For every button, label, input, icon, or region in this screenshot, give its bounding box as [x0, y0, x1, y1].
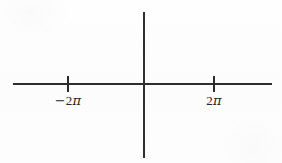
minus-sign-glyph: − [55, 93, 66, 108]
tick-mark-two-pi [213, 76, 215, 92]
tick-label-number: 2 [66, 93, 73, 108]
tick-mark-negative-two-pi [67, 76, 69, 92]
paper-texture [0, 0, 282, 163]
axes-figure: −2π 2π [0, 0, 282, 163]
pi-symbol-glyph: π [73, 93, 82, 108]
tick-label-negative-two-pi: −2π [38, 93, 98, 108]
y-axis-line [143, 12, 145, 158]
pi-symbol-glyph: π [213, 93, 222, 108]
tick-label-two-pi: 2π [184, 93, 244, 108]
tick-label-number: 2 [206, 93, 213, 108]
